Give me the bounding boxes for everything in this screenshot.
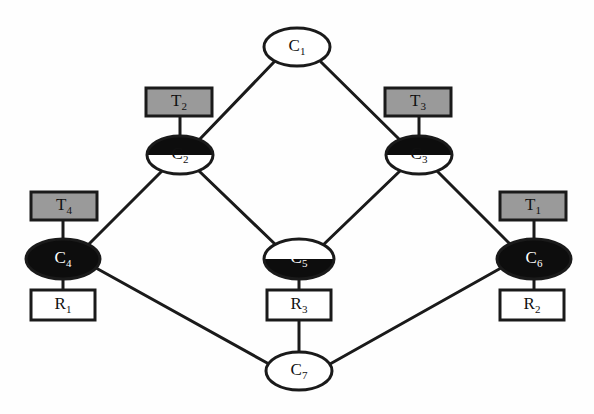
condition-node-c7[interactable]: C7 <box>266 352 332 390</box>
transition-box-t3[interactable]: T3 <box>385 88 451 116</box>
graph-edge <box>198 170 277 246</box>
resource-box-r1[interactable]: R1 <box>31 290 95 320</box>
graph-svg: T2T3T4T1R1R3R2 C1C2C3C4C5C6C7 <box>0 0 594 414</box>
graph-edge <box>330 268 501 364</box>
transition-box-t4[interactable]: T4 <box>31 192 97 220</box>
transition-box-t2[interactable]: T2 <box>146 88 212 116</box>
diagram-canvas: T2T3T4T1R1R3R2 C1C2C3C4C5C6C7 <box>0 0 594 414</box>
condition-node-c2[interactable]: C2 <box>147 136 213 174</box>
condition-node-c5[interactable]: C5 <box>264 239 334 279</box>
transition-box-t1[interactable]: T1 <box>500 192 566 220</box>
resource-box-r2[interactable]: R2 <box>500 290 564 320</box>
graph-edge <box>322 170 401 246</box>
condition-node-c6[interactable]: C6 <box>497 239 571 279</box>
resource-box-r3[interactable]: R3 <box>267 290 331 320</box>
condition-node-c1[interactable]: C1 <box>264 28 330 66</box>
condition-node-c3[interactable]: C3 <box>386 136 452 174</box>
graph-edge <box>96 268 269 364</box>
condition-node-c4[interactable]: C4 <box>26 239 100 279</box>
graph-edge <box>88 170 163 245</box>
